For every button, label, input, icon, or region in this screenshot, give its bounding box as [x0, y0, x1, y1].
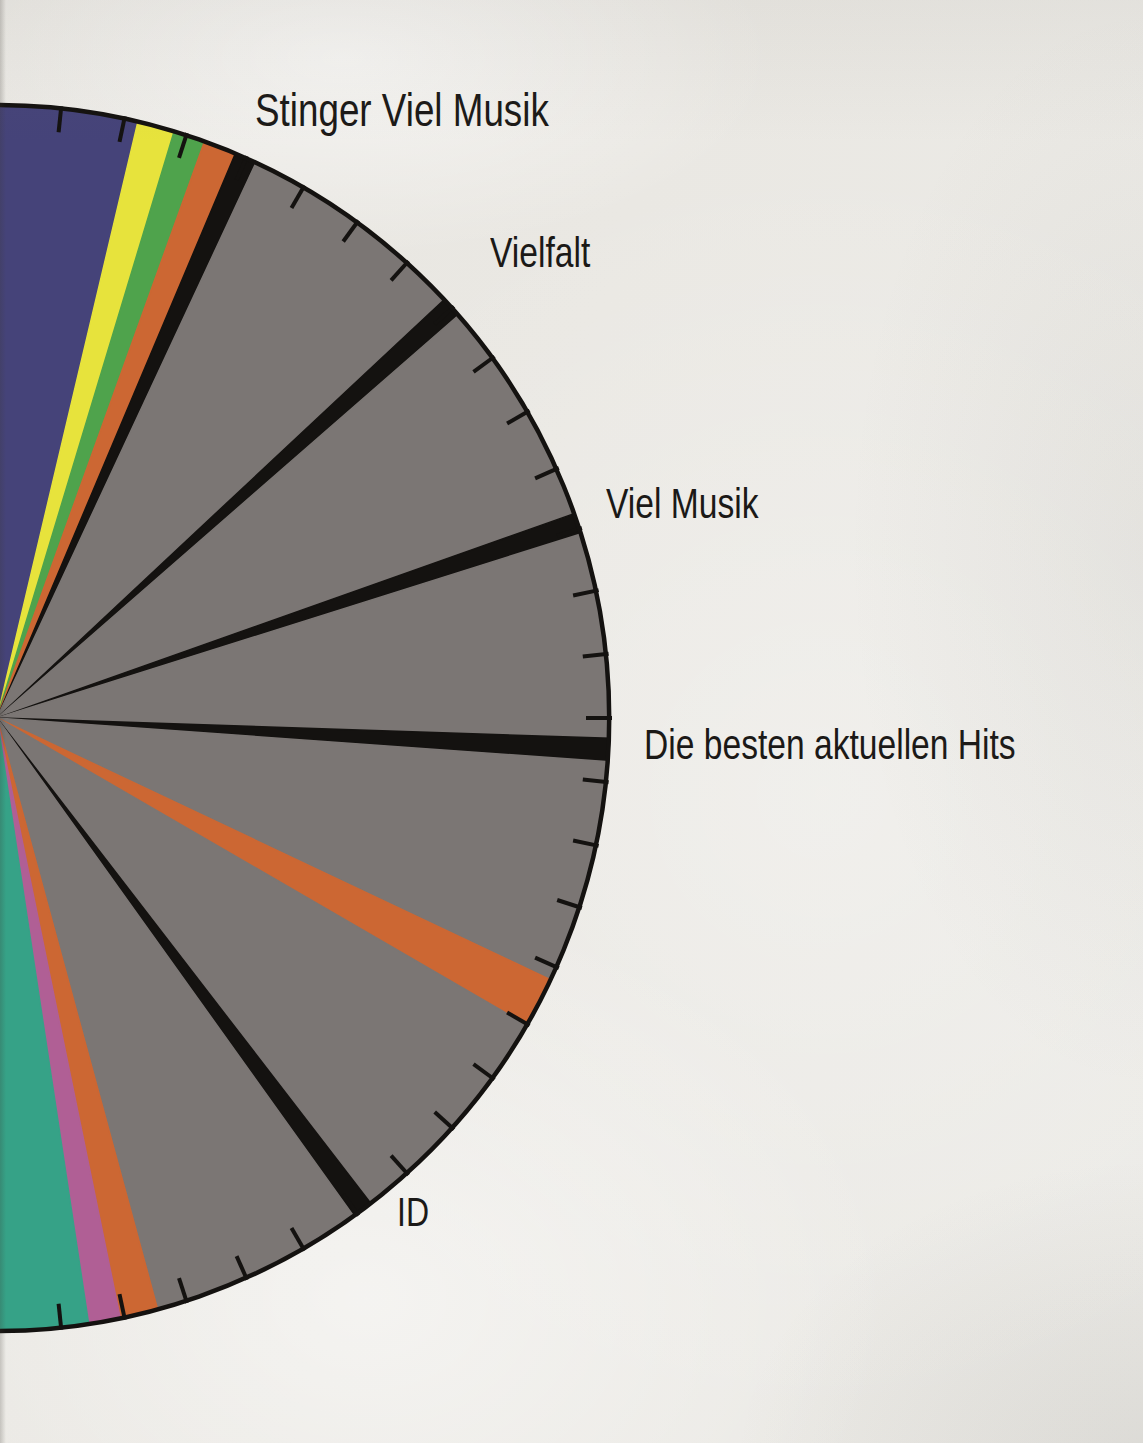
label-stinger-viel-musik: Stinger Viel Musik: [255, 84, 549, 137]
label-die-besten-aktuellen-hits: Die besten aktuellen Hits: [644, 721, 1016, 769]
label-id: ID: [397, 1189, 429, 1235]
scanned-page: Stinger Viel Musik Vielfalt Viel Musik D…: [0, 0, 1143, 1443]
label-vielfalt: Vielfalt: [490, 229, 590, 277]
label-viel-musik: Viel Musik: [606, 480, 759, 528]
